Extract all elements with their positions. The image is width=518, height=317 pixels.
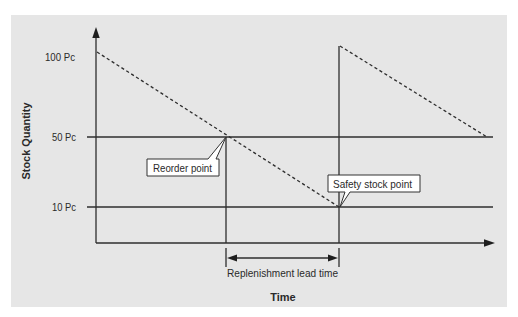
safety-stock-point-label: Safety stock point [333,178,412,190]
y-tick-100pc: 100 Pc [45,51,75,63]
y-tick-50pc: 50 Pc [52,131,76,143]
x-axis-title: Time [270,291,295,303]
y-tick-10pc: 10 Pc [52,201,76,213]
chart-panel [11,15,507,307]
stock-quantity-diagram: 100 Pc 50 Pc 10 Pc Stock Quantity Time R… [0,0,518,317]
replenishment-lead-time-label: Replenishment lead time [227,267,338,279]
reorder-point-label: Reorder point [153,162,212,174]
y-axis-title: Stock Quantity [20,102,32,180]
